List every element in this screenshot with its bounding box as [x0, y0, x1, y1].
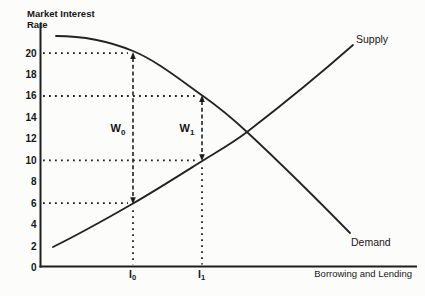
y-tick-label: 14 — [25, 112, 37, 123]
x-mark-labels: I0I1 — [129, 268, 205, 283]
y-tick-label: 12 — [25, 133, 37, 144]
y-tick-label: 4 — [31, 219, 37, 230]
supply-curve-label: Supply — [356, 33, 389, 45]
demand-curve — [56, 36, 350, 233]
y-tick-label: 8 — [31, 176, 37, 187]
y-tick-label: 0 — [31, 262, 37, 273]
x-axis-label: Borrowing and Lending — [314, 268, 412, 279]
y-axis-title-line2: Rate — [27, 19, 48, 30]
y-tick-label: 16 — [25, 90, 37, 101]
y-axis-title-line1: Market Interest — [27, 8, 95, 19]
y-tick-labels: 20181614121086420 — [25, 48, 37, 273]
figure: W0W1 20181614121086420 I0I1 Market Inter… — [0, 0, 425, 296]
wedge-label: W0 — [111, 122, 126, 137]
demand-curve-label: Demand — [351, 236, 391, 248]
arrowhead-up-icon — [130, 52, 136, 59]
y-tick-label: 20 — [25, 48, 37, 59]
y-tick-label: 10 — [25, 155, 37, 166]
x-mark-label: I1 — [198, 268, 205, 283]
y-tick-label: 6 — [31, 198, 37, 209]
x-mark-label: I0 — [129, 268, 136, 283]
wedges-layer: W0W1 — [111, 52, 205, 264]
y-tick-label: 2 — [31, 241, 37, 252]
supply-curve — [53, 45, 353, 247]
chart-svg: W0W1 20181614121086420 I0I1 Market Inter… — [0, 0, 425, 296]
wedge-label: W1 — [180, 122, 195, 137]
y-tick-label: 18 — [25, 69, 37, 80]
